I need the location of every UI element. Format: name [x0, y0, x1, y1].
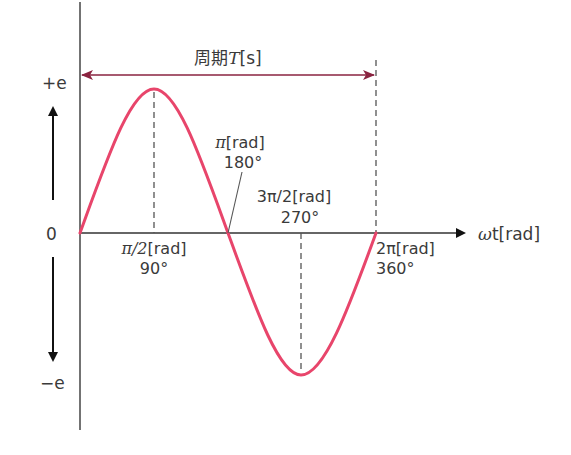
pi-half-deg-label: 90°	[140, 259, 168, 278]
y-top-label: +e	[42, 73, 67, 93]
sine-wave-diagram: 周期T[s] +e 0 −e ωt[rad] π/2[rad] 90° π[ra…	[0, 0, 571, 455]
three-pi-half-deg-label: 270°	[281, 208, 320, 227]
period-label: 周期T[s]	[194, 48, 261, 68]
y-bottom-label: −e	[40, 373, 65, 393]
pi-rad-label: π[rad]	[214, 133, 265, 152]
pi-half-rad-label: π/2[rad]	[120, 239, 186, 258]
x-axis-label: ωt[rad]	[478, 224, 540, 244]
two-pi-deg-label: 360°	[376, 259, 415, 278]
three-pi-half-rad-label: 3π/2[rad]	[257, 187, 331, 206]
pi-deg-label: 180°	[224, 153, 263, 172]
two-pi-rad-label: 2π[rad]	[376, 239, 435, 258]
pi-leader-line	[228, 172, 242, 233]
y-zero-label: 0	[46, 224, 57, 244]
